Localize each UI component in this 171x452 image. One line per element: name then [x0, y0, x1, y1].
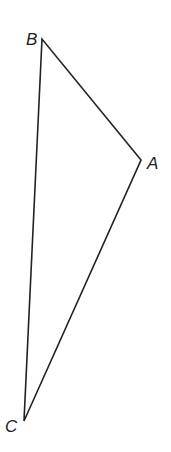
vertex-label-c: C: [5, 417, 18, 436]
vertex-label-a: A: [146, 154, 158, 173]
vertex-label-b: B: [26, 30, 37, 49]
triangle-abc: [24, 39, 141, 421]
triangle-diagram: A B C: [0, 0, 171, 452]
